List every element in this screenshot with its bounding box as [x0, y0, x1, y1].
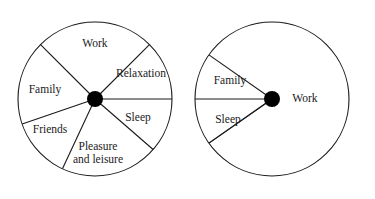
life-balance-figure: Work Relaxation Sleep Pleasure and leisu… [0, 0, 375, 199]
left-slice-label-family: Family [29, 83, 62, 96]
unbalanced-life-wheel: Work Family Sleep [195, 22, 349, 176]
left-slice-label-friends: Friends [33, 123, 68, 135]
right-slice-label-work: Work [292, 92, 318, 104]
left-slice-label-pleasure-line1: Pleasure [79, 140, 118, 152]
left-wheel-hub [87, 91, 103, 107]
right-wheel-hub [264, 91, 280, 107]
left-slice-label-sleep: Sleep [125, 111, 151, 124]
left-slice-label-work: Work [82, 37, 108, 49]
left-slice-label-pleasure-line2: and leisure [73, 153, 123, 165]
right-slice-label-family: Family [214, 74, 247, 87]
balanced-life-wheel: Work Relaxation Sleep Pleasure and leisu… [18, 22, 172, 176]
right-slice-label-sleep: Sleep [215, 113, 241, 126]
wheels-svg: Work Relaxation Sleep Pleasure and leisu… [0, 0, 375, 199]
left-slice-label-relaxation: Relaxation [116, 67, 166, 79]
